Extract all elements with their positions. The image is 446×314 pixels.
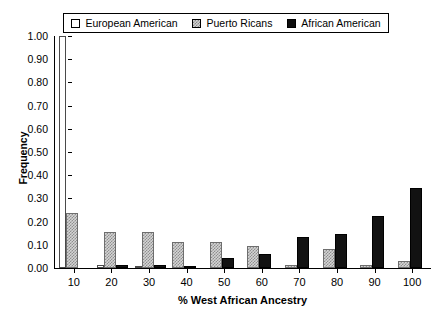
x-axis-tick-label: 20 [91, 276, 131, 288]
bar-african-american-80 [335, 234, 347, 268]
bar-puerto-ricans-40 [172, 242, 184, 268]
x-axis-tick-label: 40 [167, 276, 207, 288]
legend-entry-puerto-ricans: Puerto Ricans [190, 18, 274, 29]
bar-puerto-ricans-70 [285, 265, 297, 268]
y-axis-tick-label: 0.20 [18, 217, 48, 227]
y-axis-tick-labels: 0.000.100.200.300.400.500.600.700.800.90… [18, 36, 48, 268]
y-axis-tick-label: 0.50 [18, 147, 48, 157]
bar-group [172, 36, 203, 268]
y-axis-tick-label: 0.30 [18, 193, 48, 203]
bar-group [398, 36, 429, 268]
y-axis-tick-label: 0.70 [18, 101, 48, 111]
bar-group [247, 36, 278, 268]
legend-label-puerto-ricans: Puerto Ricans [206, 18, 272, 29]
bar-puerto-ricans-30 [142, 232, 154, 268]
y-axis-tick-label: 0.00 [18, 263, 48, 273]
bar-group [59, 36, 90, 268]
white-square-icon [71, 19, 80, 28]
bar-african-american-30 [154, 265, 166, 268]
bar-group [210, 36, 241, 268]
bar-european-american-30 [135, 266, 142, 268]
x-axis-tick-label: 50 [204, 276, 244, 288]
x-axis-tick-mark [149, 269, 150, 273]
x-axis-tick-mark [262, 269, 263, 273]
x-axis-tick-mark [375, 269, 376, 273]
x-axis-tick-label: 30 [129, 276, 169, 288]
x-axis-tick-label: 100 [392, 276, 432, 288]
bar-puerto-ricans-50 [210, 242, 222, 268]
x-axis-tick-mark [187, 269, 188, 273]
hatched-square-icon [192, 19, 201, 28]
x-axis-tick-label: 60 [242, 276, 282, 288]
y-axis-tick-label: 0.40 [18, 170, 48, 180]
x-axis-tick-label: 80 [317, 276, 357, 288]
bar-puerto-ricans-80 [323, 249, 335, 268]
bar-african-american-100 [410, 188, 422, 268]
bar-group [97, 36, 128, 268]
x-axis-tick-label: 10 [54, 276, 94, 288]
bar-group [135, 36, 166, 268]
bar-african-american-50 [222, 258, 234, 268]
bar-puerto-ricans-90 [360, 265, 372, 268]
x-axis-tick-mark [224, 269, 225, 273]
x-axis-tick-label: 70 [279, 276, 319, 288]
bar-african-american-40 [184, 266, 196, 268]
bar-group [360, 36, 391, 268]
chart-legend: European American Puerto Ricans African … [63, 13, 389, 33]
bar-puerto-ricans-60 [247, 246, 259, 268]
x-axis-tick-mark [337, 269, 338, 273]
bar-puerto-ricans-100 [398, 261, 410, 268]
bar-group [323, 36, 354, 268]
bar-african-american-60 [259, 254, 271, 268]
bar-european-american-10 [59, 36, 66, 268]
bar-african-american-90 [372, 216, 384, 268]
bar-puerto-ricans-10 [66, 213, 78, 268]
legend-label-european-american: European American [85, 18, 177, 29]
y-axis-tick-label: 0.10 [18, 240, 48, 250]
bar-puerto-ricans-20 [104, 232, 116, 268]
bar-group [285, 36, 316, 268]
legend-label-african-american: African American [301, 18, 380, 29]
x-axis-tick-mark [74, 269, 75, 273]
bar-african-american-20 [116, 265, 128, 268]
black-square-icon [287, 19, 296, 28]
x-axis-title: % West African Ancestry [54, 294, 431, 306]
legend-entry-african-american: African American [285, 18, 382, 29]
bars-container [55, 36, 431, 268]
bar-chart: Frequency 0.000.100.200.300.400.500.600.… [0, 36, 446, 314]
x-axis-tick-mark [412, 269, 413, 273]
y-axis-tick-label: 0.80 [18, 77, 48, 87]
y-axis-tick-label: 1.00 [18, 31, 48, 41]
bar-european-american-20 [97, 265, 104, 268]
x-axis-tick-mark [299, 269, 300, 273]
x-axis-tick-mark [111, 269, 112, 273]
y-axis-tick-label: 0.60 [18, 124, 48, 134]
x-axis-tick-label: 90 [355, 276, 395, 288]
legend-entry-european-american: European American [69, 18, 179, 29]
y-axis-tick-label: 0.90 [18, 54, 48, 64]
bar-african-american-70 [297, 237, 309, 268]
